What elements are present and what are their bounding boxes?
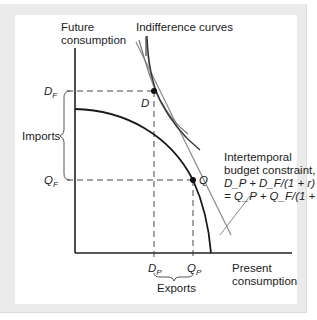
x-axis-label-line2: consumption — [232, 275, 297, 288]
tick-DF: DF — [44, 85, 57, 102]
tick-DP: DP — [148, 262, 162, 279]
tick-QP: QP — [187, 262, 201, 279]
tick-QF: QF — [44, 174, 58, 191]
indifference-curve-2 — [146, 38, 186, 138]
x-axis-label: Present consumption — [232, 262, 297, 288]
budget-label-line2: budget constraint, — [224, 164, 317, 177]
budget-constraint-label: Intertemporal budget constraint, D_P + D… — [224, 151, 317, 203]
exports-label: Exports — [157, 282, 196, 295]
y-axis-label: Future consumption — [61, 21, 126, 47]
point-Q-marker — [190, 177, 196, 183]
point-Q-label: Q — [199, 174, 208, 187]
x-axis-label-line1: Present — [232, 262, 297, 275]
point-D-marker — [151, 88, 157, 94]
imports-label: Imports — [22, 130, 60, 143]
point-D-label: D — [141, 97, 149, 110]
budget-label-line4: = Q_P + Q_F/(1 + r) — [224, 190, 317, 203]
y-axis-label-line1: Future — [61, 21, 126, 34]
dashed-guides — [67, 91, 193, 258]
budget-label-line3: D_P + D_F/(1 + r) — [224, 177, 317, 190]
indifference-curves-label: Indifference curves — [136, 21, 233, 34]
y-axis-label-line2: consumption — [61, 34, 126, 47]
imports-brace — [60, 91, 70, 180]
budget-label-line1: Intertemporal — [224, 151, 317, 164]
